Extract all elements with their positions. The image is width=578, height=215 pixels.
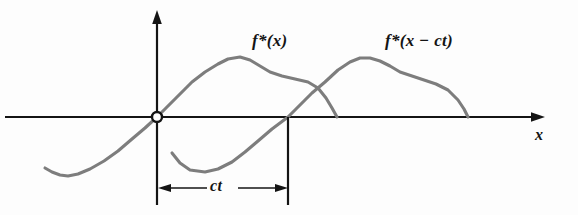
x-axis-arrowhead [531, 112, 545, 122]
y-axis-group [152, 10, 162, 205]
origin-marker-icon [152, 112, 162, 122]
ct-dimension-arrowhead-right [275, 184, 288, 192]
dimension-label-ct: ct [207, 177, 225, 195]
x-axis-group [5, 112, 545, 122]
wave-translation-figure: f*(x) f*(x − ct) x ct [0, 0, 578, 215]
y-axis-arrowhead [152, 10, 162, 24]
curve-label-f-star-x-minus-ct: f*(x − ct) [385, 31, 453, 51]
ct-dimension-arrowhead-left [158, 184, 171, 192]
curve-label-f-star-x: f*(x) [252, 31, 287, 51]
curve-f-star-x-minus-ct [172, 58, 468, 172]
diagram-canvas [0, 0, 578, 215]
axis-label-x: x [535, 126, 543, 144]
